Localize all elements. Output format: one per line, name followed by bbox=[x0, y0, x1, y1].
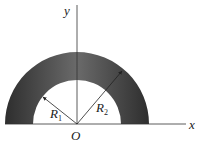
annulus-diagram: y x O R1 R2 bbox=[0, 0, 199, 150]
r2-label: R2 bbox=[95, 100, 108, 117]
y-label: y bbox=[62, 3, 70, 18]
r1-label: R1 bbox=[49, 106, 62, 123]
origin-label: O bbox=[71, 128, 81, 143]
x-label: x bbox=[188, 117, 195, 132]
